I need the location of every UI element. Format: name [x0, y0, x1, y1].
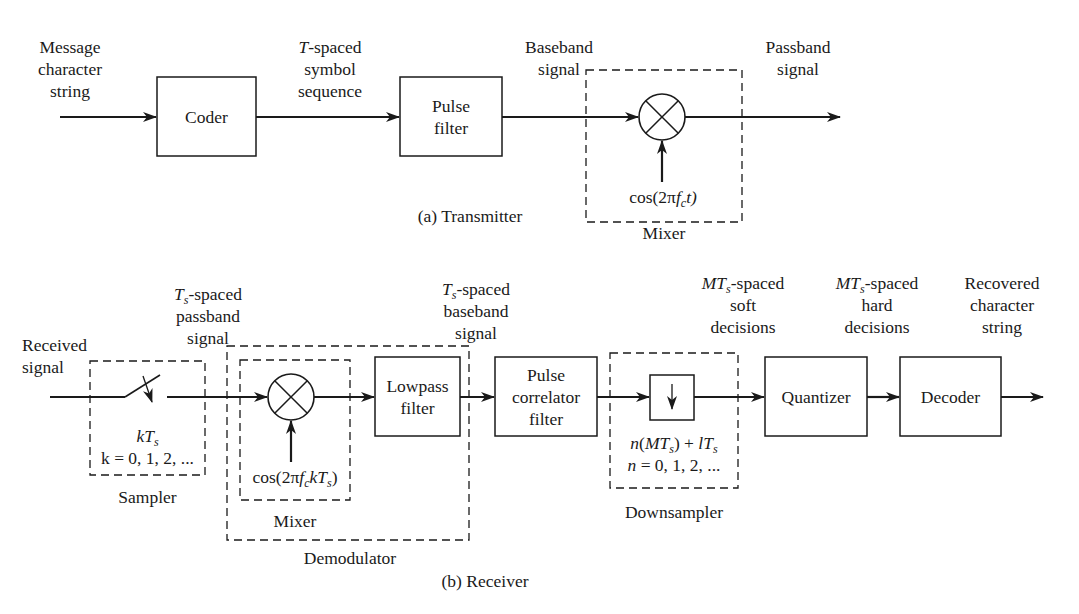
downsampler-time-label: n(MTs) + lTs n = 0, 1, 2, ... — [612, 432, 736, 476]
rx-oscillator-label: cos(2πfckTs) — [238, 466, 352, 488]
rx-mixer-label: Mixer — [255, 510, 335, 532]
rx-multiplier-icon — [268, 374, 314, 420]
demodulator-label: Demodulator — [290, 547, 410, 569]
rx-passband-label: Ts-spaced passband signal — [158, 283, 258, 349]
tx-mixer-label: Mixer — [624, 222, 704, 244]
sampler-label: Sampler — [100, 486, 195, 508]
rx-input-label: Received signal — [22, 334, 112, 378]
tx-baseband-label: Baseband signal — [504, 36, 614, 80]
tx-passband-label: Passband signal — [750, 36, 846, 80]
pulse-filter-label: Pulse filter — [400, 77, 502, 156]
tx-symbol-label: T-spaced symbol sequence — [278, 36, 382, 102]
decoder-label: Decoder — [900, 357, 1001, 436]
receiver-caption: (b) Receiver — [430, 570, 540, 592]
tx-multiplier-icon — [639, 94, 685, 140]
tx-oscillator-label: cos(2πfct) — [596, 186, 730, 208]
rx-soft-label: MTs-spaced soft decisions — [688, 272, 798, 338]
rx-hard-label: MTs-spaced hard decisions — [822, 272, 932, 338]
sampler-time-label: kTs k = 0, 1, 2, ... — [90, 425, 205, 469]
lowpass-filter-label: Lowpass filter — [375, 357, 460, 436]
pulse-correlator-label: Pulse correlator filter — [495, 357, 597, 436]
downsampler-label: Downsampler — [612, 501, 736, 523]
tx-input-label: Message character string — [28, 36, 112, 102]
rx-baseband-label: Ts-spaced baseband signal — [424, 278, 528, 344]
sampler-switch-icon — [50, 375, 160, 402]
coder-label: Coder — [157, 77, 256, 156]
transmitter-caption: (a) Transmitter — [400, 205, 540, 227]
rx-output-label: Recovered character string — [952, 272, 1052, 338]
quantizer-label: Quantizer — [765, 357, 867, 436]
